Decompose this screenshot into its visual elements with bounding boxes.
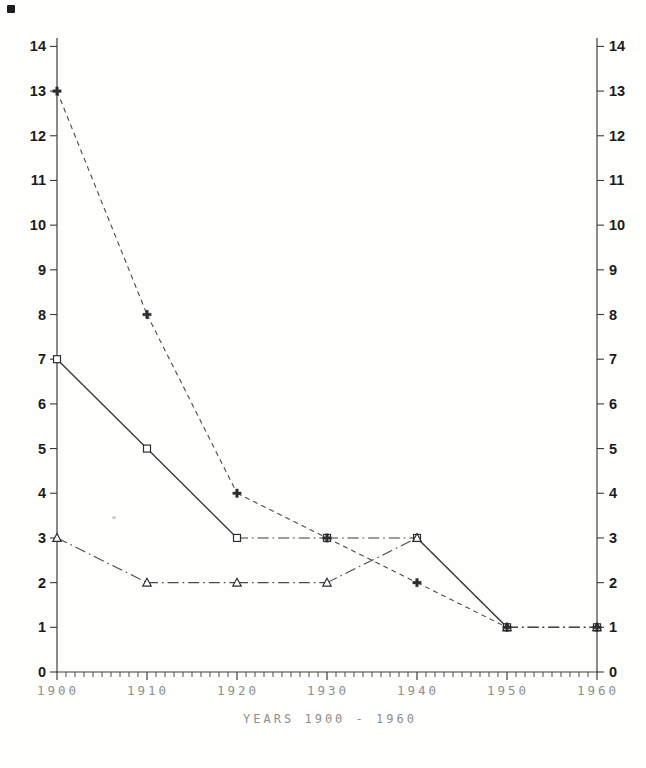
marker-square-square-solid — [234, 534, 241, 541]
y-axis-label-left: 10 — [30, 217, 46, 233]
series-segment-square-solid — [147, 449, 237, 538]
y-axis-label-left: 0 — [38, 664, 46, 680]
y-axis-label-right: 8 — [609, 307, 617, 323]
y-axis-label-right: 0 — [609, 664, 617, 680]
y-axis-label-left: 9 — [38, 262, 46, 278]
scan-artifact-speck — [7, 5, 15, 13]
series-segment-plus-dashed — [147, 315, 237, 494]
series-segment-plus-dashed — [57, 91, 147, 314]
dual-axis-line-chart: 0011223344556677889910101111121213131414… — [0, 0, 646, 768]
y-axis-label-right: 10 — [609, 217, 625, 233]
y-axis-label-right: 12 — [609, 128, 625, 144]
scanned-chart-page: 0011223344556677889910101111121213131414… — [0, 0, 646, 768]
y-axis-label-right: 6 — [609, 396, 617, 412]
marker-plus-plus-dashed — [143, 310, 151, 318]
y-axis-label-left: 11 — [31, 172, 46, 188]
x-axis-label: 1920 — [217, 683, 259, 698]
y-axis-label-left: 4 — [38, 485, 46, 501]
y-axis-label-right: 13 — [609, 83, 625, 99]
y-axis-label-right: 2 — [609, 575, 617, 591]
y-axis-label-left: 3 — [38, 530, 46, 546]
y-axis-label-right: 11 — [609, 172, 624, 188]
x-axis-label: 1950 — [487, 683, 529, 698]
marker-square-square-solid — [54, 356, 61, 363]
marker-plus-plus-dashed — [233, 489, 241, 497]
y-axis-label-left: 7 — [38, 351, 46, 367]
series-segment-square-solid — [57, 359, 147, 448]
marker-plus-plus-dashed — [53, 87, 61, 95]
marker-plus-plus-dashed — [413, 578, 421, 586]
marker-square-square-solid — [144, 445, 151, 452]
y-axis-label-left: 14 — [30, 38, 46, 54]
y-axis-label-left: 5 — [38, 441, 46, 457]
series-segment-plus-dashed — [417, 583, 507, 628]
scan-artifact-dot — [112, 516, 116, 519]
y-axis-label-right: 1 — [609, 619, 617, 635]
y-axis-label-right: 3 — [609, 530, 617, 546]
y-axis-label-left: 12 — [30, 128, 46, 144]
x-axis-label: 1960 — [577, 683, 619, 698]
y-axis-label-left: 8 — [38, 307, 46, 323]
y-axis-label-right: 5 — [609, 441, 617, 457]
x-axis-label: 1910 — [127, 683, 169, 698]
x-axis-label: 1940 — [397, 683, 439, 698]
x-axis-label: 1900 — [37, 683, 79, 698]
y-axis-label-right: 14 — [609, 38, 625, 54]
x-axis-label: 1930 — [307, 683, 349, 698]
y-axis-label-left: 6 — [38, 396, 46, 412]
series-segment-plus-dashed — [237, 493, 327, 538]
y-axis-label-right: 4 — [609, 485, 617, 501]
y-axis-label-right: 9 — [609, 262, 617, 278]
y-axis-label-right: 7 — [609, 351, 617, 367]
y-axis-label-left: 2 — [38, 575, 46, 591]
y-axis-label-left: 1 — [38, 619, 46, 635]
series-segment-triangle-dashdot — [57, 538, 147, 583]
x-axis-title: YEARS 1900 - 1960 — [243, 712, 417, 726]
y-axis-label-left: 13 — [30, 83, 46, 99]
